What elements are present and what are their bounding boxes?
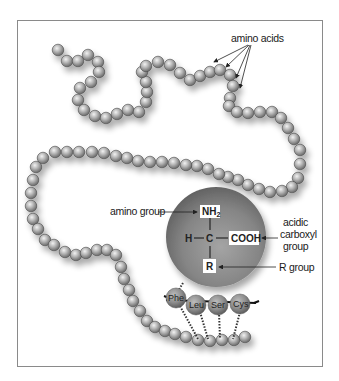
chain-bead — [127, 295, 139, 307]
svg-text:Cys: Cys — [233, 299, 249, 309]
label-carboxyl-3: group — [283, 240, 309, 252]
label-amino-acids: amino acids — [231, 32, 284, 44]
chain-bead — [32, 223, 44, 235]
chain-bead — [227, 80, 239, 92]
label-amino-group: amino group — [110, 205, 166, 217]
chain-bead — [164, 59, 176, 71]
chain-bead — [61, 146, 73, 158]
chain-bead — [192, 334, 204, 346]
chain-bead — [282, 122, 294, 134]
chain-bead — [48, 239, 60, 251]
chain-bead — [49, 146, 61, 158]
chain-bead — [70, 249, 82, 261]
chain-bead — [30, 161, 42, 173]
chain-bead — [168, 157, 180, 169]
chain-bead — [134, 305, 146, 317]
chain-bead — [123, 284, 135, 296]
chain-bead — [61, 55, 73, 67]
chain-bead — [121, 152, 133, 164]
chain-bead — [82, 49, 94, 61]
r-text: R — [206, 261, 214, 272]
chain-bead — [264, 186, 276, 198]
bead-leu: Leu — [186, 295, 206, 315]
chain-bead — [133, 106, 145, 118]
chain-bead — [86, 146, 98, 158]
chain-bead — [242, 107, 254, 119]
chain-bead — [213, 168, 225, 180]
chain-bead — [72, 55, 84, 67]
cooh-text: COOH — [231, 233, 261, 244]
chain-bead — [110, 150, 122, 162]
chain-bead — [93, 66, 105, 78]
chain-bead — [110, 249, 122, 261]
sequence-beads: Phe Leu Ser Cys — [164, 288, 259, 315]
chain-bead — [180, 331, 192, 343]
chain-bead — [98, 147, 110, 159]
chain-bead — [74, 82, 86, 94]
chain-bead — [152, 56, 164, 68]
chain-bead — [169, 328, 181, 340]
chain-bead — [239, 331, 251, 343]
chain-bead — [294, 144, 306, 156]
chain-bead — [25, 187, 37, 199]
svg-text:Ser: Ser — [211, 300, 225, 310]
chain-bead — [191, 160, 203, 172]
chain-bead — [59, 246, 71, 258]
chain-bead — [118, 273, 130, 285]
chain-bead — [224, 69, 236, 81]
chain-bead — [254, 106, 266, 118]
amino-acid-chain — [25, 44, 306, 347]
chain-bead — [276, 185, 288, 197]
chain-bead — [180, 159, 192, 171]
chain-bead — [202, 163, 214, 175]
chain-bead — [73, 146, 85, 158]
chain-bead — [231, 106, 243, 118]
chain-bead — [111, 108, 123, 120]
chain-bead — [89, 110, 101, 122]
chain-bead — [122, 104, 134, 116]
chain-bead — [216, 334, 228, 346]
chain-bead — [115, 261, 127, 273]
chain-bead — [78, 104, 90, 116]
chain-bead — [80, 247, 92, 259]
chain-bead — [174, 67, 186, 79]
label-carboxyl-2: carboxyl — [280, 228, 317, 240]
bead-ser: Ser — [208, 295, 228, 315]
chain-bead — [25, 200, 37, 212]
chain-bead — [132, 155, 144, 167]
chain-bead — [144, 156, 156, 168]
label-carboxyl-1: acidic — [283, 216, 308, 228]
chain-bead — [140, 60, 152, 72]
chain-bead — [156, 156, 168, 168]
chain-bead — [253, 183, 265, 195]
bead-cys: Cys — [230, 294, 250, 314]
chain-bead — [85, 76, 97, 88]
chain-bead — [52, 44, 64, 56]
svg-text:Phe: Phe — [168, 293, 184, 303]
chain-bead — [72, 94, 84, 106]
chain-bead — [204, 335, 216, 347]
svg-text:Leu: Leu — [189, 300, 204, 310]
bead-phe: Phe — [166, 288, 186, 308]
hydrogen-bonds — [174, 283, 240, 339]
chain-bead — [275, 112, 287, 124]
c-atom: C — [206, 233, 213, 244]
label-r-group: R group — [279, 261, 315, 273]
chain-bead — [27, 174, 39, 186]
chain-bead — [288, 133, 300, 145]
chain-bead — [100, 112, 112, 124]
protein-diagram: NH2 H C COOH R Phe Leu Ser Cys amino aci — [0, 0, 339, 381]
chain-bead — [294, 158, 306, 170]
chain-bead — [204, 66, 216, 78]
h-atom: H — [185, 233, 192, 244]
